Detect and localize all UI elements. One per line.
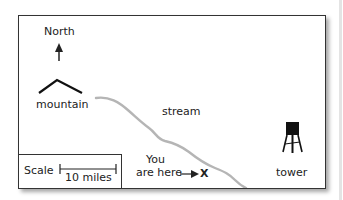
mountain-icon — [39, 80, 82, 93]
page-edge-line — [339, 0, 342, 200]
are-here-label: are here — [136, 167, 182, 179]
scale-legend: Scale 10 miles — [19, 154, 122, 188]
arrow-right-icon — [180, 170, 199, 178]
mountain-label: mountain — [36, 99, 88, 111]
stream-label: stream — [162, 106, 201, 118]
scale-distance: 10 miles — [65, 172, 112, 184]
map: North mountain stream You are here X tow… — [18, 15, 326, 189]
x-marker: X — [200, 168, 208, 180]
north-label: North — [44, 26, 75, 38]
you-label: You — [146, 154, 165, 166]
water-tower-icon — [283, 122, 302, 153]
north-arrow-icon — [55, 43, 63, 61]
tower-label: tower — [276, 167, 307, 179]
